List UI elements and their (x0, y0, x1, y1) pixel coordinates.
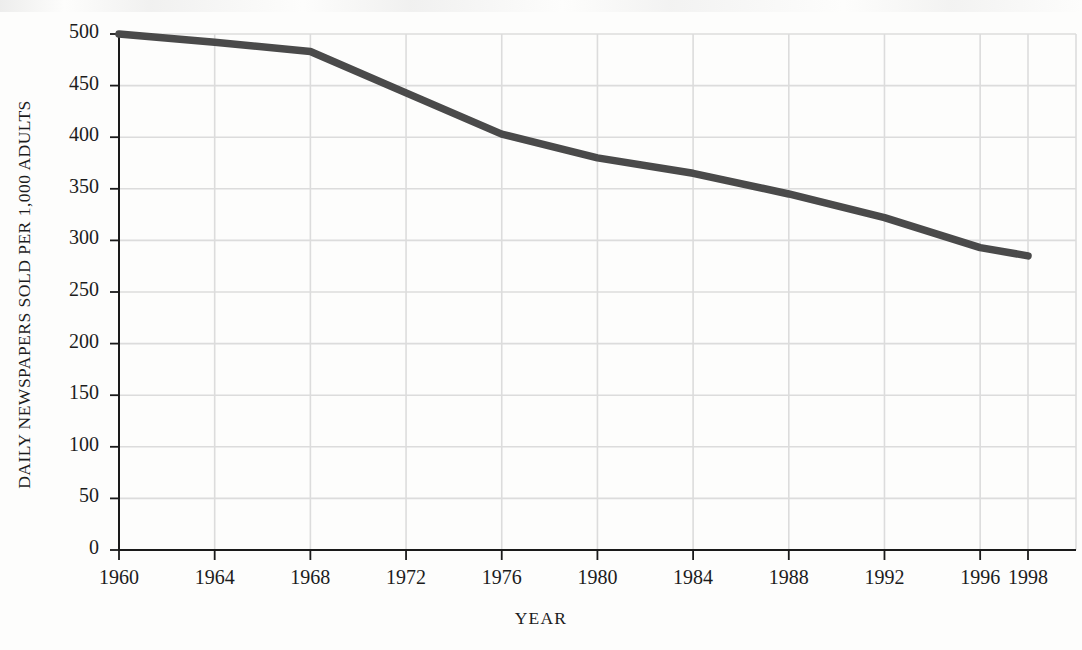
x-tick-label: 1976 (462, 566, 542, 589)
y-tick-label: 150 (35, 381, 99, 404)
x-tick-label: 1960 (79, 566, 159, 589)
x-tick-label: 1980 (557, 566, 637, 589)
y-tick-label: 350 (35, 175, 99, 198)
y-tick-label: 500 (35, 20, 99, 43)
y-tick-label: 450 (35, 72, 99, 95)
y-tick-label: 0 (35, 536, 99, 559)
x-axis-title: YEAR (0, 608, 1082, 629)
data-series-line (119, 34, 1028, 256)
x-tick-label: 1972 (366, 566, 446, 589)
x-tick-label: 1968 (270, 566, 350, 589)
chart-container: 050100150200250300350400450500 196019641… (0, 0, 1082, 650)
y-tick-label: 250 (35, 278, 99, 301)
x-tick-label: 1964 (175, 566, 255, 589)
x-tick-label: 1998 (988, 566, 1068, 589)
line-chart-plot (0, 0, 1082, 650)
y-tick-label: 400 (35, 123, 99, 146)
axis-ticks (110, 34, 1028, 560)
x-tick-label: 1992 (844, 566, 924, 589)
y-tick-label: 200 (35, 330, 99, 353)
x-tick-label: 1984 (653, 566, 733, 589)
y-tick-label: 300 (35, 226, 99, 249)
y-tick-label: 50 (35, 484, 99, 507)
y-tick-label: 100 (35, 433, 99, 456)
y-axis-title: DAILY NEWSPAPERS SOLD PER 1,000 ADULTS (14, 35, 35, 555)
x-tick-label: 1988 (749, 566, 829, 589)
